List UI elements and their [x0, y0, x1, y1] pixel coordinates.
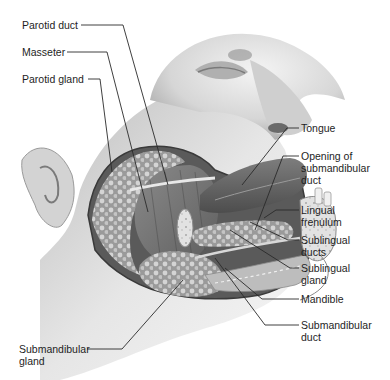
label-parotid-gland: Parotid gland	[22, 73, 84, 85]
label-tongue: Tongue	[301, 122, 335, 134]
label-submandibular-duct: Submandibular duct	[301, 319, 372, 343]
label-opening-of-submandibular-duct: Opening of submandibular duct	[301, 150, 370, 186]
label-sublingual-ducts: Sublingual ducts	[301, 234, 350, 258]
label-sublingual-gland: Sublingual gland	[301, 262, 350, 286]
label-lingual-frenulum: Lingual frenulum	[301, 204, 342, 228]
label-masseter: Masseter	[22, 46, 65, 58]
label-mandible: Mandible	[301, 293, 344, 305]
anatomy-diagram: Parotid duct Masseter Parotid gland Subm…	[0, 0, 390, 380]
label-parotid-duct: Parotid duct	[22, 19, 78, 31]
label-submandibular-gland: Submandibular gland	[19, 343, 90, 367]
